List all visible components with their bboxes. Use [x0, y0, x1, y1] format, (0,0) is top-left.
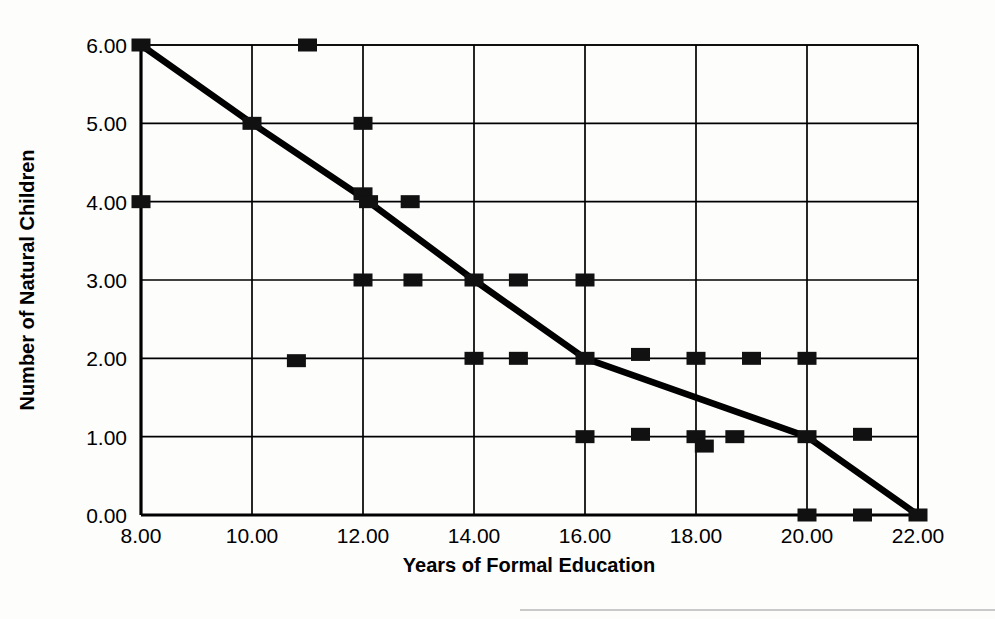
x-axis-title: Years of Formal Education: [403, 554, 655, 576]
data-point-marker: [576, 430, 595, 443]
data-point-marker: [243, 117, 262, 130]
y-tick-label: 4.00: [86, 191, 127, 214]
data-point-marker: [354, 117, 373, 130]
data-point-marker: [798, 509, 817, 522]
x-tick-label: 22.00: [892, 524, 945, 547]
scatter-plot: 8.0010.0012.0014.0016.0018.0020.0022.00 …: [0, 0, 995, 619]
data-point-marker: [403, 274, 422, 287]
data-point-marker: [725, 430, 744, 443]
data-point-marker: [465, 352, 484, 365]
x-tick-label: 16.00: [559, 524, 612, 547]
data-point-marker: [509, 352, 528, 365]
x-tick-label: 20.00: [781, 524, 834, 547]
data-point-marker: [687, 352, 706, 365]
data-point-marker: [909, 509, 928, 522]
y-tick-label: 1.00: [86, 426, 127, 449]
data-point-marker: [132, 195, 151, 208]
data-point-marker: [509, 274, 528, 287]
data-point-marker: [695, 440, 714, 453]
y-tick-label: 0.00: [86, 504, 127, 527]
data-point-marker: [742, 352, 761, 365]
y-tick-label: 2.00: [86, 347, 127, 370]
data-point-marker: [132, 39, 151, 52]
data-point-marker: [298, 39, 317, 52]
data-point-marker: [631, 428, 650, 441]
data-point-marker: [576, 352, 595, 365]
y-tick-label: 6.00: [86, 34, 127, 57]
data-point-marker: [853, 428, 872, 441]
y-axis-title: Number of Natural Children: [16, 149, 38, 410]
data-point-marker: [401, 195, 420, 208]
data-point-marker: [287, 354, 306, 367]
data-point-marker: [359, 195, 378, 208]
x-tick-label: 8.00: [121, 524, 162, 547]
data-point-marker: [853, 509, 872, 522]
data-point-marker: [354, 274, 373, 287]
x-tick-label: 18.00: [670, 524, 723, 547]
data-point-marker: [576, 274, 595, 287]
y-tick-label: 5.00: [86, 112, 127, 135]
chart-figure: 8.0010.0012.0014.0016.0018.0020.0022.00 …: [0, 0, 995, 619]
y-tick-label: 3.00: [86, 269, 127, 292]
x-tick-label: 14.00: [448, 524, 501, 547]
x-tick-label: 12.00: [337, 524, 390, 547]
data-point-marker: [631, 348, 650, 361]
data-point-marker: [465, 274, 484, 287]
data-point-marker: [798, 352, 817, 365]
x-tick-label: 10.00: [226, 524, 279, 547]
data-point-marker: [798, 430, 817, 443]
